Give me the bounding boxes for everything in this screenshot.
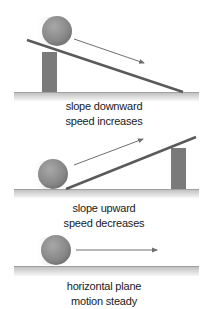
- caption-line-2: speed increases: [0, 115, 208, 128]
- caption-slope-upward: slope upward speed decreases: [0, 202, 208, 230]
- caption-line-1: slope downward: [0, 100, 208, 113]
- scene-slope-upward: [14, 137, 199, 198]
- scene-slope-downward: [14, 16, 199, 101]
- caption-horizontal-plane: horizontal plane motion steady: [0, 280, 208, 308]
- caption-line-2: speed decreases: [0, 217, 208, 230]
- ground: [14, 266, 199, 276]
- ball: [42, 16, 72, 46]
- ground: [14, 189, 199, 198]
- diagram-canvas: [0, 0, 208, 309]
- scene-horizontal-plane: [14, 235, 199, 276]
- caption-line-1: slope upward: [0, 202, 208, 215]
- support-post: [171, 148, 186, 189]
- caption-slope-downward: slope downward speed increases: [0, 100, 208, 128]
- caption-line-2: motion steady: [0, 295, 208, 308]
- ball: [38, 159, 68, 189]
- caption-line-1: horizontal plane: [0, 280, 208, 293]
- ball: [41, 235, 71, 265]
- support-post: [42, 52, 57, 92]
